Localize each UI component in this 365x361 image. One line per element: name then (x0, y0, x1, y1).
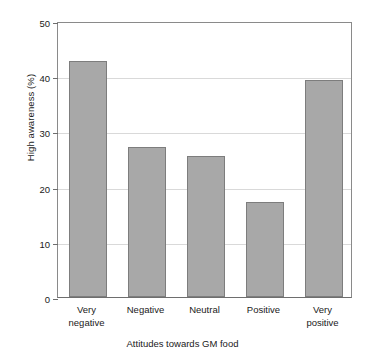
bar (187, 156, 225, 297)
bar (128, 147, 166, 297)
x-axis-category-label: Verypositive (293, 304, 352, 329)
x-axis-category-line: positive (293, 317, 352, 330)
x-axis-category-line: Positive (234, 304, 293, 317)
y-axis-tick-label: 50 (39, 18, 50, 29)
x-axis-category-line: Very (293, 304, 352, 317)
y-axis-tick-label: 20 (39, 183, 50, 194)
x-axis-category-line: Negative (116, 304, 175, 317)
bar-chart-figure: High awareness (%) 01020304050 Attitudes… (0, 0, 365, 361)
x-axis-category-line: negative (57, 317, 116, 330)
y-axis-tick-label: 0 (45, 294, 50, 305)
y-axis-tick (53, 133, 58, 134)
y-axis-tick-label: 30 (39, 128, 50, 139)
x-axis-title: Attitudes towards GM food (0, 338, 365, 349)
y-axis-tick (53, 78, 58, 79)
x-axis-category-line: Neutral (175, 304, 234, 317)
y-axis-tick (53, 299, 58, 300)
y-axis-tick (53, 244, 58, 245)
bar (305, 80, 343, 297)
y-axis-tick-label: 40 (39, 73, 50, 84)
bar (69, 61, 107, 297)
bar (246, 202, 284, 297)
x-axis-category-label: Negative (116, 304, 175, 317)
x-axis-category-label: Verynegative (57, 304, 116, 329)
x-axis-category-label: Neutral (175, 304, 234, 317)
x-axis-category-line: Very (57, 304, 116, 317)
plot-area: 01020304050 (57, 22, 352, 298)
y-axis-title: High awareness (%) (25, 18, 36, 218)
y-axis-tick (53, 189, 58, 190)
y-axis-tick (53, 23, 58, 24)
y-axis-tick-label: 10 (39, 238, 50, 249)
x-axis-category-label: Positive (234, 304, 293, 317)
